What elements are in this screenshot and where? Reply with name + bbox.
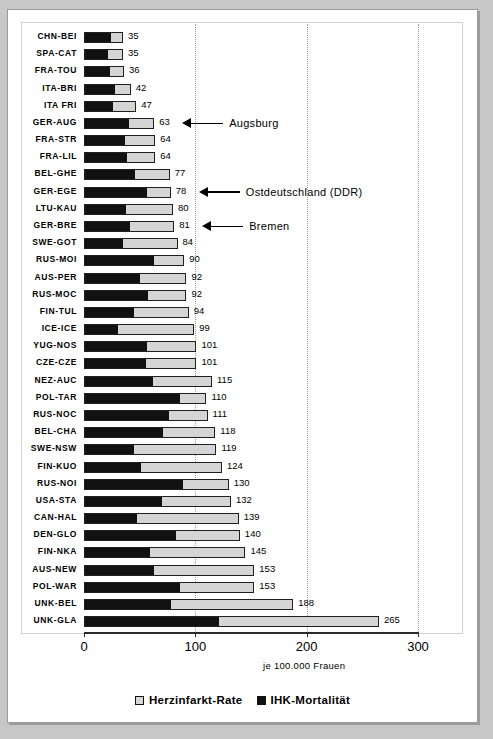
category-label: CHN-BEI (37, 31, 77, 42)
bar-segment-ihk-mortalitaet (85, 514, 137, 523)
category-label: ICE-ICE (42, 323, 77, 334)
bar-value-label: 99 (199, 322, 210, 334)
x-axis: 0100200300 (84, 632, 418, 634)
bar-total-herzinfarkt-rate (84, 599, 293, 610)
annotation-callout: Augsburg (182, 118, 279, 129)
bar-segment-ihk-mortalitaet (85, 531, 176, 540)
category-label: GER-EGE (34, 186, 77, 197)
bar-total-herzinfarkt-rate (84, 479, 229, 490)
annotation-callout: Bremen (202, 221, 289, 232)
category-label: ITA-BRI (42, 83, 77, 94)
bar-segment-ihk-mortalitaet (85, 291, 148, 300)
bar-value-label: 35 (128, 47, 139, 59)
bar-value-label: 64 (160, 150, 171, 162)
bar-segment-ihk-mortalitaet (85, 102, 113, 111)
bar-segment-ihk-mortalitaet (85, 583, 180, 592)
bar-total-herzinfarkt-rate (84, 616, 379, 627)
annotation-leader-line (191, 123, 223, 125)
annotation-callout: Ostdeutschland (DDR) (199, 187, 363, 198)
bar-value-label: 64 (160, 133, 171, 145)
bar-segment-ihk-mortalitaet (85, 394, 180, 403)
bar-value-label: 118 (220, 425, 235, 437)
category-label: RUS-MOC (32, 289, 77, 300)
bar-segment-ihk-mortalitaet (85, 325, 118, 334)
bar-total-herzinfarkt-rate (84, 187, 171, 198)
bar-value-label: 81 (179, 219, 190, 231)
annotation-label: Ostdeutschland (DDR) (246, 186, 363, 198)
bar-total-herzinfarkt-rate (84, 238, 178, 249)
bar-value-label: 153 (259, 580, 275, 592)
bar-total-herzinfarkt-rate (84, 376, 212, 387)
category-label: CZE-CZE (36, 357, 77, 368)
arrow-left-icon (202, 221, 211, 231)
category-label: RUS-MOI (36, 254, 77, 265)
x-tick-label: 300 (407, 639, 429, 654)
annotation-leader-line (208, 191, 240, 193)
gridline-300 (418, 24, 419, 632)
bar-value-label: 265 (384, 614, 400, 626)
bar-value-label: 92 (191, 271, 202, 283)
bar-value-label: 77 (175, 167, 186, 179)
bar-value-label: 80 (178, 202, 189, 214)
bar-segment-ihk-mortalitaet (85, 548, 150, 557)
bar-segment-ihk-mortalitaet (85, 67, 110, 76)
category-label: GER-BRE (34, 220, 77, 231)
category-label: NEZ-AUC (35, 375, 77, 386)
category-label: POL-WAR (33, 581, 77, 592)
bar-total-herzinfarkt-rate (84, 101, 136, 112)
gridline-200 (307, 24, 308, 632)
category-label: FRA-STR (36, 134, 78, 145)
bar-segment-ihk-mortalitaet (85, 342, 147, 351)
x-tick-label: 100 (184, 639, 206, 654)
bar-value-label: 92 (191, 288, 202, 300)
bar-value-label: 153 (259, 563, 275, 575)
bar-total-herzinfarkt-rate (84, 307, 189, 318)
category-label: DEN-GLO (34, 529, 77, 540)
bar-value-label: 35 (128, 30, 139, 42)
bar-segment-ihk-mortalitaet (85, 256, 154, 265)
bar-value-label: 84 (183, 236, 194, 248)
legend-swatch-light-icon (135, 696, 144, 705)
bar-segment-ihk-mortalitaet (85, 566, 154, 575)
x-tick-label: 200 (296, 639, 318, 654)
bar-total-herzinfarkt-rate (84, 204, 173, 215)
page-background: CHN-BEI35SPA-CAT35FRA-TOU36ITA-BRI42ITA … (0, 0, 493, 739)
legend-swatch-dark-icon (257, 696, 266, 705)
bar-value-label: 94 (194, 305, 205, 317)
legend-label: Herzinfarkt-Rate (149, 694, 243, 706)
category-label: AUS-PER (35, 272, 77, 283)
bar-total-herzinfarkt-rate (84, 341, 196, 352)
category-label: POL-TAR (36, 392, 77, 403)
annotation-label: Bremen (249, 220, 289, 232)
bar-value-label: 63 (159, 116, 170, 128)
bar-segment-ihk-mortalitaet (85, 222, 130, 231)
category-label: SWE-GOT (32, 237, 77, 248)
bar-segment-ihk-mortalitaet (85, 50, 108, 59)
bar-total-herzinfarkt-rate (84, 290, 186, 301)
bar-value-label: 124 (227, 460, 243, 472)
bar-total-herzinfarkt-rate (84, 496, 231, 507)
bar-segment-ihk-mortalitaet (85, 617, 219, 626)
category-label: AUS-NEW (32, 564, 77, 575)
bar-total-herzinfarkt-rate (84, 324, 194, 335)
category-label: UNK-BEL (35, 598, 77, 609)
bar-total-herzinfarkt-rate (84, 582, 254, 593)
category-label: LTU-KAU (36, 203, 77, 214)
category-label: SWE-NSW (31, 443, 77, 454)
legend-label: IHK-Mortalität (271, 694, 351, 706)
bar-total-herzinfarkt-rate (84, 32, 123, 43)
bar-segment-ihk-mortalitaet (85, 170, 135, 179)
bar-segment-ihk-mortalitaet (85, 136, 125, 145)
bar-segment-ihk-mortalitaet (85, 377, 153, 386)
bar-value-label: 139 (244, 511, 260, 523)
x-tick-100 (195, 632, 196, 637)
category-label: BEL-CHA (35, 426, 77, 437)
bar-total-herzinfarkt-rate (84, 427, 215, 438)
bar-total-herzinfarkt-rate (84, 547, 245, 558)
bar-value-label: 78 (176, 185, 187, 197)
bar-segment-ihk-mortalitaet (85, 239, 123, 248)
plot-area: CHN-BEI35SPA-CAT35FRA-TOU36ITA-BRI42ITA … (84, 24, 493, 632)
legend: Herzinfarkt-Rate IHK-Mortalität (8, 694, 477, 706)
category-label: FRA-LIL (40, 151, 77, 162)
category-label: FIN-TUL (40, 306, 77, 317)
